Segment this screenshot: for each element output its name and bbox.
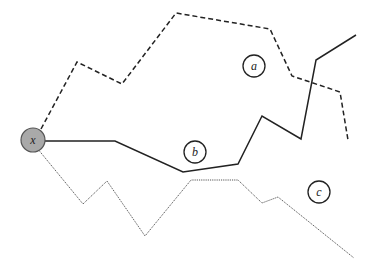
- path-diagram: a b c x: [0, 0, 374, 273]
- dotted-path: [37, 148, 354, 258]
- region-c: c: [308, 181, 330, 203]
- start-node-x: x: [21, 128, 45, 152]
- dashed-path: [41, 13, 348, 140]
- region-a-label: a: [251, 59, 257, 73]
- region-a: a: [243, 55, 265, 77]
- region-b-label: b: [192, 145, 198, 159]
- region-c-label: c: [316, 185, 322, 199]
- start-node-label: x: [29, 133, 36, 147]
- region-b: b: [184, 141, 206, 163]
